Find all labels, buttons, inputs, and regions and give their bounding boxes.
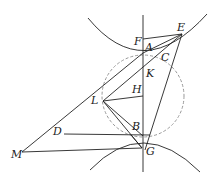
segment-LE [103,34,182,101]
segment-MG [22,148,142,152]
label-C: C [161,51,170,64]
diagram-canvas: E F A C K H L B D G M [0,0,222,177]
segment-D [64,134,150,135]
geometry-diagram: E F A C K H L B D G M [0,0,222,177]
lower-parabola [90,143,200,172]
label-F: F [133,35,142,48]
label-E: E [176,21,185,34]
segment-MA [22,53,143,152]
segment-LH [103,96,143,101]
label-K: K [145,67,155,80]
label-M: M [10,148,23,161]
label-G: G [146,145,155,158]
label-A: A [144,41,153,54]
label-H: H [131,83,142,96]
label-B: B [131,120,140,133]
label-L: L [90,94,98,107]
label-D: D [52,125,62,138]
